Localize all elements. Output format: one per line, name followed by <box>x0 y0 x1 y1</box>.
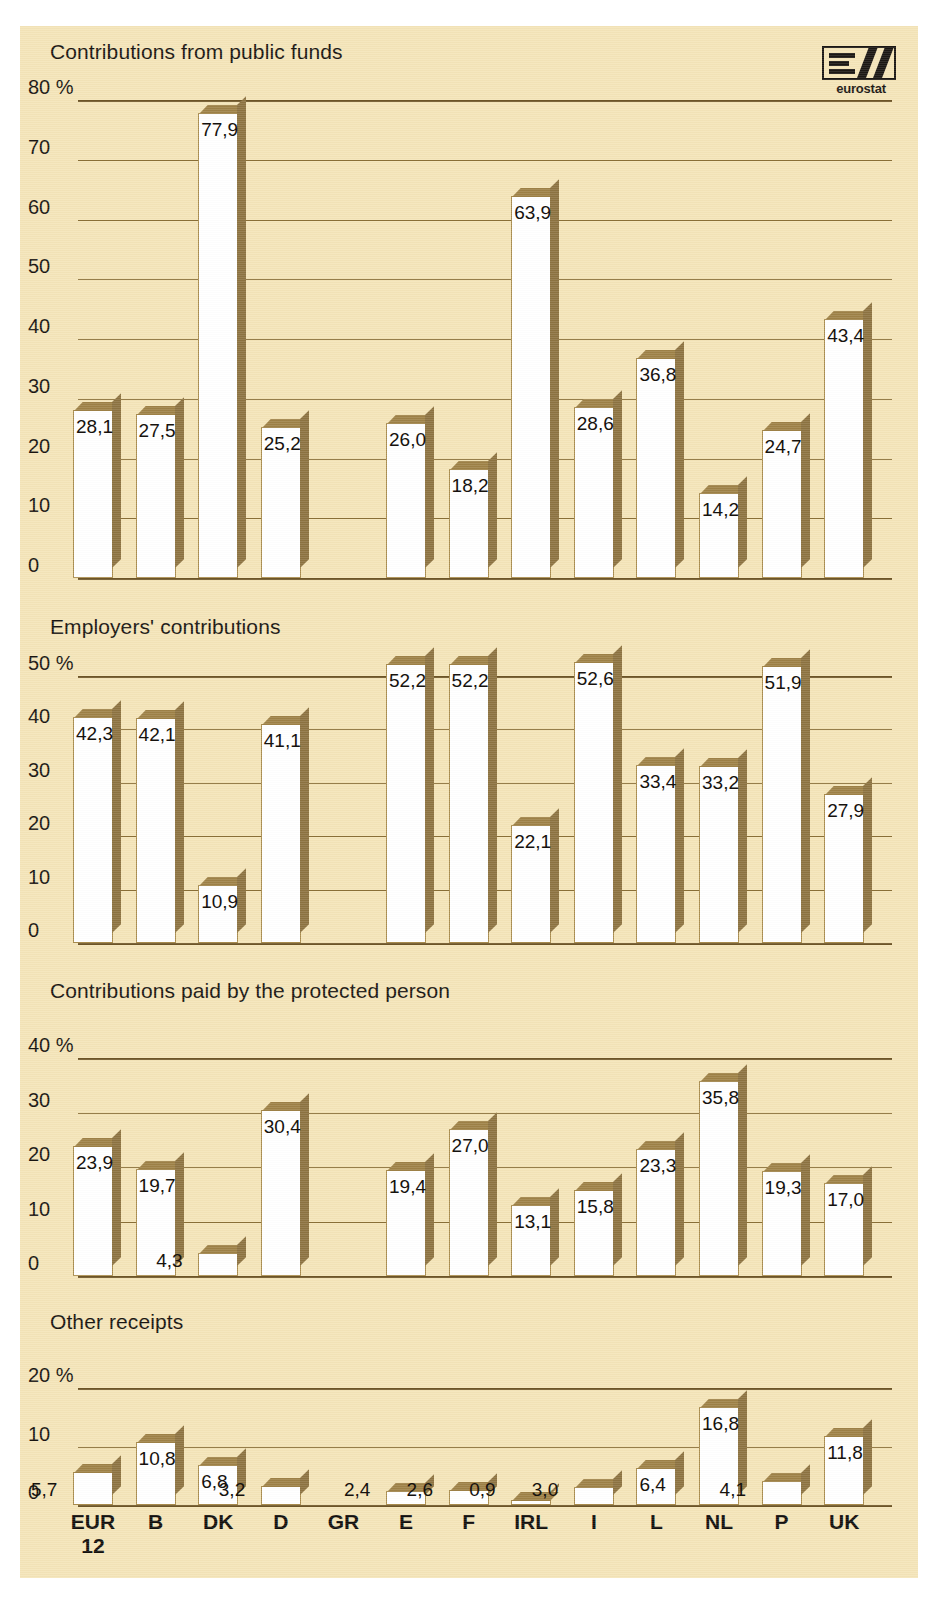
axis-baseline-3 <box>78 1276 892 1278</box>
bar-value-label-1-dk: 77,9 <box>201 119 238 141</box>
x-axis-label-line: 12 <box>59 1534 127 1558</box>
bar-side-face <box>425 648 434 933</box>
bar-2-eur-12 <box>73 717 113 943</box>
axis-baseline-2 <box>78 943 892 945</box>
x-axis-label-uk: UK <box>810 1510 878 1534</box>
bar-value-label-2-uk: 27,9 <box>827 800 864 822</box>
bar-side-face <box>112 1455 121 1495</box>
bar-value-label-3-f: 27,0 <box>452 1135 489 1157</box>
bar-side-face <box>613 1471 622 1495</box>
y-tick-label-1-70: 70 <box>28 136 50 159</box>
bar-value-label-1-b: 27,5 <box>139 420 176 442</box>
bar-value-label-3-eur-12: 23,9 <box>76 1152 113 1174</box>
bar-4-i <box>574 1487 614 1505</box>
bar-side-face <box>300 707 309 933</box>
bar-value-label-1-d: 25,2 <box>264 433 301 455</box>
bar-value-label-3-uk: 17,0 <box>827 1189 864 1211</box>
bar-1-dk <box>198 113 238 578</box>
bar-value-label-3-dk: 4,3 <box>156 1250 182 1272</box>
bar-side-face <box>738 1064 747 1266</box>
x-axis-label-line: D <box>247 1510 315 1534</box>
bar-value-label-4-p: 4,1 <box>720 1479 746 1501</box>
bar-side-face <box>175 397 184 568</box>
eurostat-logo: eurostat <box>822 46 900 96</box>
x-axis-label-f: F <box>435 1510 503 1534</box>
bar-2-b <box>136 718 176 943</box>
bar-2-f <box>449 664 489 943</box>
bar-4-eur-12 <box>73 1472 113 1505</box>
bar-value-label-4-e: 2,4 <box>344 1479 370 1501</box>
y-tick-label-1-0: 0 <box>28 554 39 577</box>
bar-value-label-3-irl: 13,1 <box>514 1211 551 1233</box>
y-tick-label-3-20: 20 <box>28 1143 50 1166</box>
bar-side-face <box>112 1129 121 1266</box>
eurostat-logo-text: eurostat <box>822 81 900 96</box>
bar-value-label-3-b: 19,7 <box>139 1175 176 1197</box>
y-tick-label-1-80: 80 % <box>28 76 74 99</box>
bar-value-label-4-f: 2,6 <box>407 1479 433 1501</box>
bar-value-label-3-e: 19,4 <box>389 1176 426 1198</box>
bar-side-face <box>550 808 559 933</box>
bar-side-face <box>300 411 309 568</box>
bar-value-label-3-nl: 35,8 <box>702 1087 739 1109</box>
x-axis-label-line: GR <box>309 1510 377 1534</box>
y-tick-label-2-40: 40 <box>28 705 50 728</box>
bar-side-face <box>801 1464 810 1495</box>
figure-page: eurostat Contributions from public funds… <box>0 0 946 1597</box>
axis-baseline-1 <box>78 578 892 580</box>
chart-title-2: Employers' contributions <box>50 615 281 639</box>
bar-side-face <box>175 1152 184 1266</box>
y-tick-label-1-20: 20 <box>28 435 50 458</box>
y-tick-label-1-40: 40 <box>28 315 50 338</box>
bar-side-face <box>613 645 622 933</box>
y-tick-label-4-20: 20 % <box>28 1364 74 1387</box>
bar-side-face <box>175 1425 184 1495</box>
chart-title-3: Contributions paid by the protected pers… <box>50 979 450 1003</box>
y-tick-label-1-50: 50 <box>28 255 50 278</box>
bar-value-label-2-i: 52,6 <box>577 668 614 690</box>
bar-side-face <box>550 1188 559 1266</box>
x-axis-label-l: L <box>622 1510 690 1534</box>
gridline-1-80 <box>78 100 892 102</box>
x-axis-label-nl: NL <box>685 1510 753 1534</box>
bar-value-label-4-i: 3,0 <box>532 1479 558 1501</box>
bar-value-label-3-d: 30,4 <box>264 1116 301 1138</box>
bar-side-face <box>488 453 497 568</box>
bar-side-face <box>801 649 810 933</box>
bar-value-label-1-irl: 63,9 <box>514 202 551 224</box>
gridline-4-20 <box>78 1388 892 1390</box>
bar-1-uk <box>824 319 864 578</box>
y-tick-label-3-40: 40 % <box>28 1034 74 1057</box>
chart-sheet: eurostat Contributions from public funds… <box>20 26 918 1578</box>
bar-side-face <box>425 1154 434 1266</box>
bar-value-label-2-dk: 10,9 <box>201 891 238 913</box>
axis-baseline-4 <box>78 1505 892 1507</box>
bar-side-face <box>550 179 559 567</box>
bar-1-l <box>636 358 676 578</box>
bar-side-face <box>237 1236 246 1266</box>
x-axis-label-line: P <box>748 1510 816 1534</box>
bar-value-label-3-l: 23,3 <box>639 1155 676 1177</box>
bar-2-i <box>574 662 614 943</box>
y-tick-label-1-10: 10 <box>28 494 50 517</box>
x-axis-label-line: UK <box>810 1510 878 1534</box>
bar-side-face <box>425 406 434 568</box>
y-tick-label-1-60: 60 <box>28 196 50 219</box>
y-tick-label-2-30: 30 <box>28 759 50 782</box>
chart-title-4: Other receipts <box>50 1310 183 1334</box>
x-axis-label-line: I <box>560 1510 628 1534</box>
bar-side-face <box>863 777 872 933</box>
x-axis-label-irl: IRL <box>497 1510 565 1534</box>
bar-value-label-3-i: 15,8 <box>577 1196 614 1218</box>
bar-value-label-2-l: 33,4 <box>639 771 676 793</box>
bar-value-label-1-eur-12: 28,1 <box>76 416 113 438</box>
bar-value-label-1-l: 36,8 <box>639 364 676 386</box>
x-axis-label-line: DK <box>184 1510 252 1534</box>
bar-value-label-4-nl: 16,8 <box>702 1413 739 1435</box>
bar-value-label-4-b: 10,8 <box>139 1448 176 1470</box>
x-axis-label-line: B <box>122 1510 190 1534</box>
bar-value-label-2-d: 41,1 <box>264 730 301 752</box>
bar-1-irl <box>511 196 551 578</box>
x-axis-label-line: L <box>622 1510 690 1534</box>
bar-2-p <box>762 666 802 943</box>
